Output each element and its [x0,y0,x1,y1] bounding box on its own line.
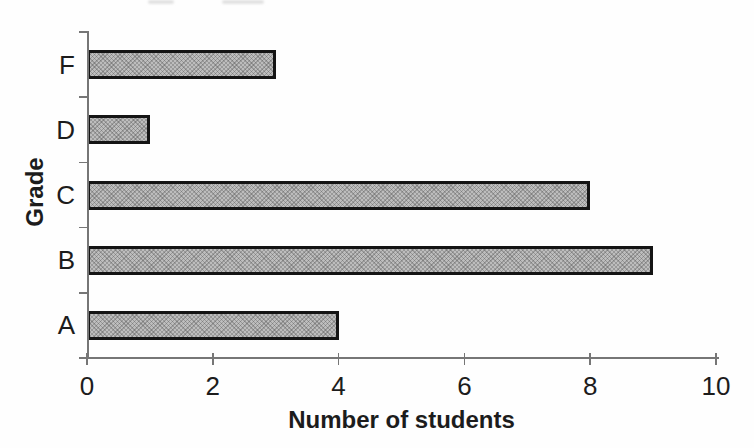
x-axis-tick [715,353,717,365]
y-axis-tick [79,96,87,98]
x-tick-label-4: 4 [331,373,345,399]
y-axis-tick [79,227,87,229]
x-axis-tick [338,353,340,365]
x-tick-label-10: 10 [702,373,731,399]
x-axis-tick [212,353,214,365]
bar-chart-figure: Grade FDCBA 0246810 Number of students [0,0,754,448]
bar-A [87,311,339,340]
bar-C [87,181,590,210]
x-axis-tick [589,353,591,365]
y-tick-label-C: C [29,182,75,208]
x-tick-label-6: 6 [457,373,471,399]
x-axis-title: Number of students [87,407,716,433]
x-tick-label-8: 8 [583,373,597,399]
bar-B [87,246,653,275]
y-tick-label-F: F [29,52,75,78]
y-tick-label-D: D [29,117,75,143]
x-axis-tick [464,353,466,365]
y-axis-tick [79,292,87,294]
y-tick-label-A: A [29,312,75,338]
x-axis-line [82,357,719,359]
scan-artifact [148,0,174,4]
bar-F [87,50,276,79]
bar-D [87,115,150,144]
y-axis-tick [79,31,87,33]
x-tick-label-0: 0 [80,373,94,399]
y-tick-label-B: B [29,247,75,273]
x-tick-label-2: 2 [206,373,220,399]
y-axis-tick [79,162,87,164]
scan-artifact [222,0,264,4]
y-axis-line [87,31,89,359]
